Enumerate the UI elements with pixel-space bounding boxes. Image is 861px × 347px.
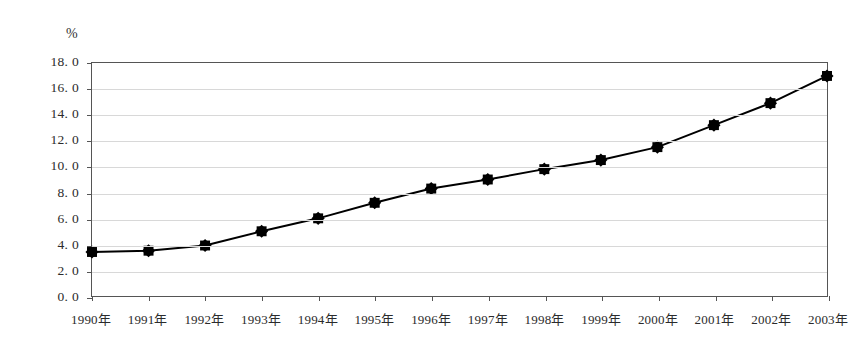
data-point-marker	[368, 196, 381, 209]
x-axis-tick-label: 1996年	[411, 312, 451, 327]
x-axis-tick-label: 1992年	[184, 312, 224, 327]
gridline	[92, 246, 827, 247]
data-point-marker	[651, 141, 664, 154]
gridline	[92, 272, 827, 273]
y-axis-tick-label: 2. 0	[58, 264, 79, 278]
data-point-marker	[85, 245, 98, 258]
y-axis-tick-mark	[87, 63, 92, 64]
y-axis-tick-label: 6. 0	[58, 212, 79, 226]
x-axis-tick-mark	[716, 296, 717, 301]
gridline	[92, 89, 827, 90]
x-axis-tick-mark	[375, 296, 376, 301]
series-line	[92, 76, 827, 252]
x-axis-tick-label: 2001年	[695, 312, 735, 327]
x-axis-tick-mark	[772, 296, 773, 301]
y-axis-tick-mark	[87, 115, 92, 116]
x-axis-tick-label: 2002年	[751, 312, 791, 327]
x-axis-tick-mark	[489, 296, 490, 301]
data-point-marker	[594, 154, 607, 167]
y-axis-tick-mark	[87, 220, 92, 221]
x-axis-tick-label: 1995年	[354, 312, 394, 327]
y-axis-tick-mark	[87, 246, 92, 247]
x-axis-tick-mark	[546, 296, 547, 301]
y-axis-tick-label: 18. 0	[51, 55, 80, 69]
data-point-marker	[255, 225, 268, 238]
x-axis-tick-mark	[602, 296, 603, 301]
x-axis-tick-label: 2000年	[638, 312, 678, 327]
y-axis-tick-mark	[87, 89, 92, 90]
data-point-marker	[820, 69, 833, 82]
line-chart: % 18. 016. 014. 012. 010. 08. 06. 04. 02…	[0, 0, 861, 347]
x-axis-tick-label: 1990年	[71, 312, 111, 327]
data-point-marker	[538, 163, 551, 176]
gridline	[92, 167, 827, 168]
y-axis-tick-mark	[87, 167, 92, 168]
y-axis-tick-label: 0. 0	[58, 290, 79, 304]
x-axis-tick-mark	[205, 296, 206, 301]
y-axis-tick-mark	[87, 141, 92, 142]
x-axis-tick-mark	[829, 296, 830, 301]
x-axis-tick-label: 1994年	[298, 312, 338, 327]
series-line-and-markers	[92, 63, 827, 296]
x-axis-tick-mark	[262, 296, 263, 301]
x-axis-tick-mark	[149, 296, 150, 301]
y-axis-tick-label: 10. 0	[51, 159, 80, 173]
x-axis-tick-mark	[92, 296, 93, 301]
data-point-marker	[764, 97, 777, 110]
x-axis-tick-mark	[319, 296, 320, 301]
plot-area	[91, 62, 828, 297]
gridline	[92, 194, 827, 195]
x-axis-tick-mark	[659, 296, 660, 301]
y-axis-tick-label: 4. 0	[58, 238, 79, 252]
x-axis-tick-label: 2003年	[808, 312, 848, 327]
data-point-marker	[312, 212, 325, 225]
x-axis-tick-mark	[432, 296, 433, 301]
data-point-marker	[481, 173, 494, 186]
y-axis-unit-label: %	[66, 26, 78, 42]
x-axis-tick-label: 1993年	[241, 312, 281, 327]
y-axis-tick-label: 8. 0	[58, 186, 79, 200]
y-axis-tick-label: 14. 0	[51, 107, 80, 121]
x-axis-tick-label: 1997年	[468, 312, 508, 327]
y-axis-tick-label: 12. 0	[51, 133, 80, 147]
gridline	[92, 141, 827, 142]
gridline	[92, 220, 827, 221]
y-axis-tick-label: 16. 0	[51, 81, 80, 95]
x-axis-tick-label: 1999年	[581, 312, 621, 327]
y-axis-tick-mark	[87, 194, 92, 195]
y-axis-tick-mark	[87, 272, 92, 273]
x-axis-tick-label: 1991年	[128, 312, 168, 327]
x-axis-tick-label: 1998年	[525, 312, 565, 327]
data-point-marker	[707, 119, 720, 132]
gridline	[92, 115, 827, 116]
